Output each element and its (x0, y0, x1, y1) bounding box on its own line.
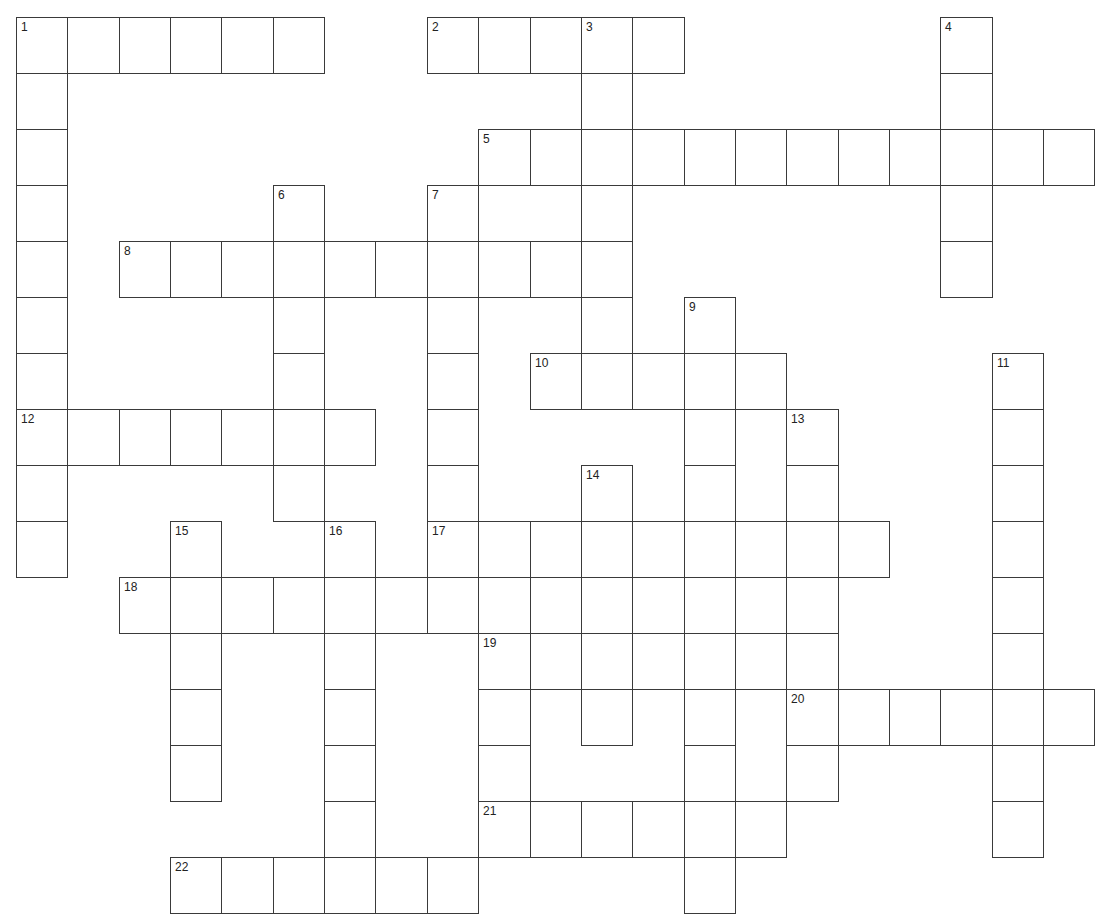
cell-letter-input[interactable] (582, 130, 632, 185)
grid-cell[interactable] (632, 521, 685, 578)
cell-letter-input[interactable] (428, 298, 478, 353)
grid-cell[interactable]: 15 (170, 521, 222, 578)
grid-cell[interactable]: 14 (581, 465, 633, 522)
grid-cell[interactable] (786, 577, 839, 634)
cell-letter-input[interactable] (736, 354, 786, 409)
grid-cell[interactable] (684, 409, 736, 466)
grid-cell[interactable] (16, 185, 68, 242)
cell-letter-input[interactable] (685, 466, 735, 521)
grid-cell[interactable] (530, 521, 582, 578)
grid-cell[interactable]: 4 (940, 17, 993, 74)
grid-cell[interactable] (786, 745, 839, 802)
grid-cell[interactable] (221, 857, 274, 914)
grid-cell[interactable]: 19 (478, 633, 531, 690)
grid-cell[interactable] (940, 73, 993, 130)
cell-letter-input[interactable] (17, 242, 67, 297)
cell-letter-input[interactable] (531, 522, 581, 577)
grid-cell[interactable] (324, 745, 376, 802)
grid-cell[interactable] (735, 577, 787, 634)
cell-letter-input[interactable] (736, 634, 786, 689)
cell-letter-input[interactable] (787, 746, 838, 801)
cell-letter-input[interactable] (839, 690, 889, 745)
grid-cell[interactable] (632, 353, 685, 410)
grid-cell[interactable] (786, 521, 839, 578)
grid-cell[interactable] (375, 241, 428, 298)
grid-cell[interactable] (221, 409, 274, 466)
cell-letter-input[interactable] (736, 130, 786, 185)
cell-letter-input[interactable] (428, 410, 478, 465)
cell-letter-input[interactable] (120, 578, 170, 633)
grid-cell[interactable] (786, 129, 839, 186)
cell-letter-input[interactable] (890, 690, 940, 745)
cell-letter-input[interactable] (582, 354, 632, 409)
grid-cell[interactable] (992, 801, 1044, 858)
grid-cell[interactable] (324, 689, 376, 746)
grid-cell[interactable]: 11 (992, 353, 1044, 410)
cell-letter-input[interactable] (274, 18, 324, 73)
grid-cell[interactable] (581, 241, 633, 298)
grid-cell[interactable] (940, 129, 993, 186)
grid-cell[interactable] (324, 633, 376, 690)
grid-cell[interactable] (735, 521, 787, 578)
cell-letter-input[interactable] (17, 18, 67, 73)
cell-letter-input[interactable] (120, 242, 170, 297)
cell-letter-input[interactable] (479, 802, 530, 857)
cell-letter-input[interactable] (171, 242, 221, 297)
cell-letter-input[interactable] (479, 746, 530, 801)
cell-letter-input[interactable] (685, 802, 735, 857)
grid-cell[interactable] (530, 633, 582, 690)
grid-cell[interactable] (324, 857, 376, 914)
grid-cell[interactable]: 20 (786, 689, 839, 746)
cell-letter-input[interactable] (993, 634, 1043, 689)
grid-cell[interactable]: 10 (530, 353, 582, 410)
cell-letter-input[interactable] (17, 74, 67, 129)
cell-letter-input[interactable] (376, 858, 427, 913)
cell-letter-input[interactable] (171, 634, 221, 689)
cell-letter-input[interactable] (274, 354, 324, 409)
grid-cell[interactable]: 3 (581, 17, 633, 74)
grid-cell[interactable] (273, 297, 325, 354)
grid-cell[interactable] (221, 577, 274, 634)
cell-letter-input[interactable] (582, 186, 632, 241)
cell-letter-input[interactable] (428, 186, 478, 241)
grid-cell[interactable] (16, 241, 68, 298)
cell-letter-input[interactable] (941, 186, 992, 241)
cell-letter-input[interactable] (325, 578, 375, 633)
cell-letter-input[interactable] (736, 578, 786, 633)
cell-letter-input[interactable] (17, 410, 67, 465)
grid-cell[interactable] (735, 129, 787, 186)
cell-letter-input[interactable] (582, 298, 632, 353)
grid-cell[interactable] (735, 801, 787, 858)
cell-letter-input[interactable] (736, 802, 786, 857)
grid-cell[interactable] (684, 577, 736, 634)
grid-cell[interactable] (684, 353, 736, 410)
cell-letter-input[interactable] (274, 858, 324, 913)
cell-letter-input[interactable] (68, 18, 119, 73)
grid-cell[interactable] (324, 241, 376, 298)
grid-cell[interactable] (478, 689, 531, 746)
cell-letter-input[interactable] (171, 18, 221, 73)
grid-cell[interactable] (940, 241, 993, 298)
grid-cell[interactable] (684, 633, 736, 690)
grid-cell[interactable] (735, 633, 787, 690)
grid-cell[interactable] (838, 129, 890, 186)
cell-letter-input[interactable] (1044, 690, 1094, 745)
cell-letter-input[interactable] (428, 242, 478, 297)
cell-letter-input[interactable] (993, 746, 1043, 801)
grid-cell[interactable] (16, 521, 68, 578)
grid-cell[interactable]: 2 (427, 17, 479, 74)
grid-cell[interactable] (427, 297, 479, 354)
grid-cell[interactable]: 8 (119, 241, 171, 298)
cell-letter-input[interactable] (787, 690, 838, 745)
grid-cell[interactable] (992, 465, 1044, 522)
grid-cell[interactable] (16, 129, 68, 186)
grid-cell[interactable] (992, 521, 1044, 578)
cell-letter-input[interactable] (325, 242, 375, 297)
grid-cell[interactable] (889, 129, 941, 186)
cell-letter-input[interactable] (685, 298, 735, 353)
cell-letter-input[interactable] (479, 130, 530, 185)
grid-cell[interactable] (375, 577, 428, 634)
cell-letter-input[interactable] (685, 690, 735, 745)
cell-letter-input[interactable] (479, 522, 530, 577)
cell-letter-input[interactable] (171, 690, 221, 745)
